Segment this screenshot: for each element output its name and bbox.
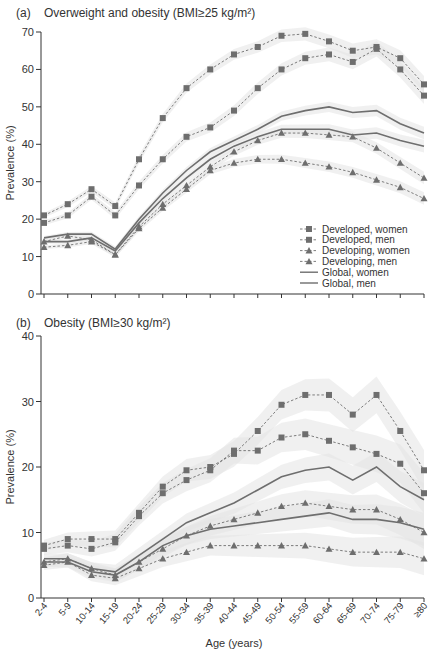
square-marker: [279, 66, 285, 72]
square-marker: [231, 448, 237, 454]
panel-a-title: Overweight and obesity (BMI≥25 kg/m²): [44, 6, 255, 20]
legend-item: Developed, women: [300, 224, 408, 235]
y-tick-label: 20: [22, 461, 34, 473]
x-tick-label: 35-39: [192, 600, 216, 626]
x-tick-label: 2-4: [32, 600, 49, 618]
square-marker: [160, 484, 166, 490]
y-axis-title: Prevalence (%): [4, 429, 16, 504]
square-marker: [302, 431, 308, 437]
x-tick-label: ≥80: [411, 600, 430, 619]
y-tick-label: 30: [22, 396, 34, 408]
figure: (a) Overweight and obesity (BMI≥25 kg/m²…: [0, 0, 440, 655]
x-tick-label: 55-59: [287, 600, 311, 626]
legend-item: Developed, men: [300, 234, 395, 245]
legend-item: Global, women: [300, 267, 389, 278]
panel-b-title: Obesity (BMI≥30 kg/m²): [44, 316, 171, 330]
square-marker: [279, 402, 285, 408]
square-marker: [397, 55, 403, 61]
square-marker: [255, 448, 261, 454]
square-marker-icon: [306, 237, 312, 243]
square-marker: [326, 392, 332, 398]
x-tick-label: 5-9: [56, 600, 73, 618]
square-marker: [350, 59, 356, 65]
x-tick-label: 45-49: [239, 600, 263, 626]
legend-label: Developed, women: [322, 224, 408, 235]
x-tick-label: 65-69: [334, 600, 358, 626]
square-marker: [136, 513, 142, 519]
square-marker: [89, 546, 95, 552]
square-marker: [255, 85, 261, 91]
x-tick-label: 60-64: [310, 600, 334, 626]
y-tick-label: 40: [22, 330, 34, 342]
square-marker: [65, 201, 71, 207]
square-marker: [136, 182, 142, 188]
x-tick-label: 30-34: [168, 600, 192, 626]
panel-b-label: (b): [16, 316, 31, 330]
legend-label: Global, men: [322, 278, 376, 289]
y-tick-label: 30: [22, 176, 34, 188]
legend-label: Developing, men: [322, 256, 397, 267]
square-marker: [397, 66, 403, 72]
panel-a-label: (a): [16, 6, 31, 20]
square-marker: [350, 412, 356, 418]
x-axis-title: Age (years): [206, 637, 263, 649]
panel-b-plot: 010203040Prevalence (%)2-45-910-1415-192…: [4, 330, 430, 626]
y-tick-label: 10: [22, 527, 34, 539]
square-marker: [207, 124, 213, 130]
legend-label: Developed, men: [322, 234, 395, 245]
square-marker: [421, 93, 427, 99]
square-marker: [65, 536, 71, 542]
square-marker: [65, 212, 71, 218]
square-marker: [89, 194, 95, 200]
square-marker: [255, 44, 261, 50]
square-marker: [207, 66, 213, 72]
square-marker: [421, 467, 427, 473]
square-marker: [112, 539, 118, 545]
square-marker: [41, 546, 47, 552]
square-marker: [374, 392, 380, 398]
square-marker: [89, 186, 95, 192]
x-tick-label: 70-74: [358, 600, 382, 626]
legend-item: Developing, women: [300, 245, 410, 256]
x-tick-label: 25-29: [144, 600, 168, 626]
square-marker: [184, 477, 190, 483]
y-tick-label: 0: [28, 592, 34, 604]
square-marker: [421, 81, 427, 87]
square-marker: [184, 467, 190, 473]
y-tick-label: 50: [22, 101, 34, 113]
x-tick-label: 75-79: [382, 600, 406, 626]
y-axis-title: Prevalence (%): [4, 125, 16, 200]
square-marker: [421, 490, 427, 496]
chart-svg: (a) Overweight and obesity (BMI≥25 kg/m²…: [0, 0, 440, 655]
square-marker: [231, 108, 237, 114]
square-marker: [136, 156, 142, 162]
square-marker: [160, 156, 166, 162]
square-marker: [374, 451, 380, 457]
square-marker: [112, 203, 118, 209]
square-marker: [350, 48, 356, 54]
square-marker: [89, 536, 95, 542]
square-marker: [65, 543, 71, 549]
x-tick-label: 10-14: [73, 600, 97, 626]
square-marker: [279, 435, 285, 441]
x-tick-label: 20-24: [120, 600, 144, 626]
legend-item: Developing, men: [300, 256, 397, 267]
square-marker: [160, 115, 166, 121]
square-marker: [160, 490, 166, 496]
square-marker: [326, 51, 332, 57]
square-marker: [255, 428, 261, 434]
square-marker: [374, 46, 380, 52]
square-marker: [279, 33, 285, 39]
y-tick-label: 70: [22, 26, 34, 38]
square-marker: [326, 38, 332, 44]
square-marker: [350, 444, 356, 450]
legend-label: Developing, women: [322, 245, 410, 256]
y-tick-label: 60: [22, 63, 34, 75]
square-marker: [302, 55, 308, 61]
square-marker: [41, 220, 47, 226]
y-tick-label: 40: [22, 138, 34, 150]
square-marker: [207, 467, 213, 473]
y-tick-label: 0: [28, 288, 34, 300]
square-marker: [302, 392, 308, 398]
square-marker: [231, 51, 237, 57]
